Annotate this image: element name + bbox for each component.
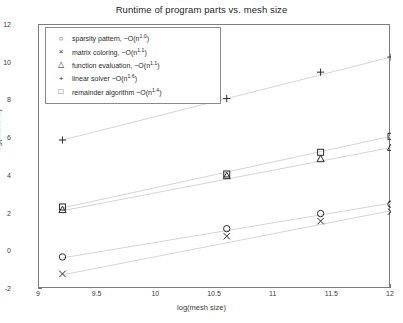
legend-item-label: function evaluation, ~O(n1.1) <box>72 62 160 69</box>
y-tick-label: 12 <box>0 21 11 28</box>
x-tick-label: 12 <box>370 290 403 297</box>
x-tick-label: 10.5 <box>194 290 234 297</box>
x-tick-label: 9 <box>18 290 58 297</box>
y-tick-label: 8 <box>0 96 11 103</box>
data-point-linear-solver <box>59 136 66 143</box>
chart-title: Runtime of program parts vs. mesh size <box>0 4 403 15</box>
y-axis-label: log(Runtime) <box>0 109 2 152</box>
legend-marker-icon: □ <box>50 88 72 96</box>
x-tick-label: 9.5 <box>77 290 117 297</box>
legend-item-label: matrix coloring, ~O(n1.1) <box>72 49 147 56</box>
x-tick-label: 11.5 <box>311 290 351 297</box>
legend-item-label: linear solver ~O(n1.6) <box>72 75 137 82</box>
data-point-sparsity-pattern <box>388 201 391 207</box>
chart-legend: ○sparsity pattern, ~O(n1.0)×matrix color… <box>45 27 221 104</box>
legend-item-1[interactable]: ×matrix coloring, ~O(n1.1) <box>50 45 215 58</box>
trend-line-sparsity-pattern <box>62 203 391 258</box>
data-point-sparsity-pattern <box>59 254 65 260</box>
x-tick-label: 10 <box>135 290 175 297</box>
legend-item-label: sparsity pattern, ~O(n1.0) <box>72 35 149 42</box>
trend-line-matrix-coloring <box>62 211 391 275</box>
data-point-linear-solver <box>223 95 230 102</box>
chart-root: Runtime of program parts vs. mesh size l… <box>0 0 403 323</box>
y-tick-label: 2 <box>0 209 11 216</box>
legend-item-4[interactable]: □remainder algorithm ~O(n1.4) <box>50 86 215 99</box>
y-tick-label: 6 <box>0 134 11 141</box>
y-tick-label: 0 <box>0 247 11 254</box>
data-point-matrix-coloring <box>224 233 230 239</box>
y-tick-label: 10 <box>0 58 11 65</box>
y-tick-label: -2 <box>0 285 11 292</box>
x-axis-label: log(mesh size) <box>0 303 403 312</box>
legend-item-label: remainder algorithm ~O(n1.4) <box>72 89 162 96</box>
legend-marker-icon: × <box>50 48 72 56</box>
data-point-linear-solver <box>387 53 391 60</box>
data-point-matrix-coloring <box>317 218 323 224</box>
legend-marker-icon: + <box>50 75 72 83</box>
legend-item-2[interactable]: △function evaluation, ~O(n1.1) <box>50 59 215 72</box>
legend-item-3[interactable]: +linear solver ~O(n1.6) <box>50 72 215 85</box>
legend-marker-icon: △ <box>50 61 72 69</box>
x-tick-label: 11 <box>253 290 293 297</box>
legend-marker-icon: ○ <box>50 35 72 43</box>
y-tick-label: 4 <box>0 171 11 178</box>
legend-item-0[interactable]: ○sparsity pattern, ~O(n1.0) <box>50 32 215 45</box>
data-point-sparsity-pattern <box>317 210 323 216</box>
